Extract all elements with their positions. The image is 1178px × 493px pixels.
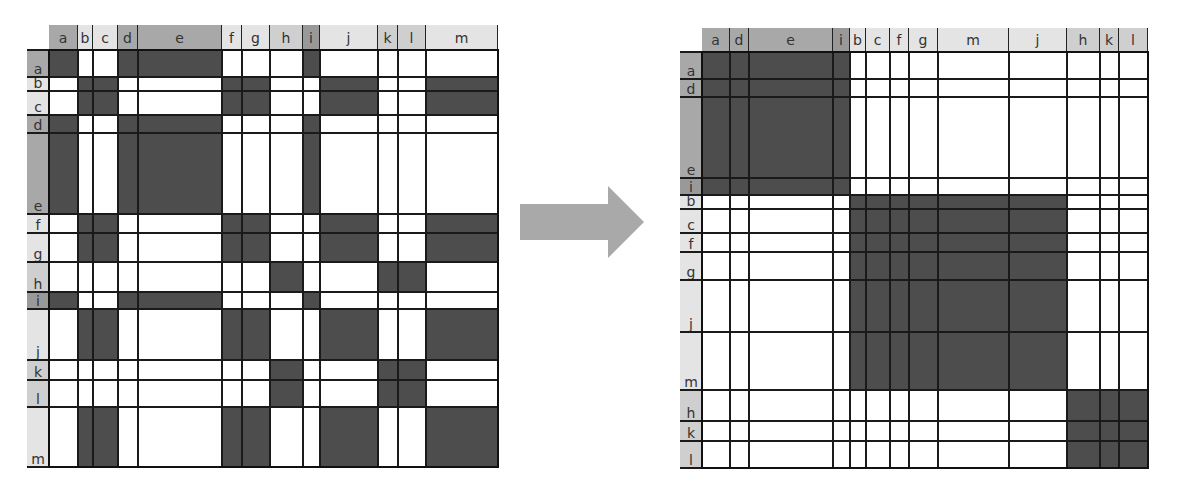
matrix-cell	[78, 133, 93, 214]
matrix-cell	[909, 252, 938, 280]
matrix-cell	[426, 77, 498, 91]
grid-line-horizontal	[680, 467, 1148, 469]
matrix-cell	[1067, 390, 1100, 421]
grid-line-vertical	[302, 50, 304, 467]
matrix-cell	[303, 360, 320, 380]
matrix-cell	[1100, 209, 1119, 233]
matrix-cell	[242, 309, 270, 360]
grid-line-vertical	[221, 50, 223, 467]
matrix-cell	[426, 407, 498, 467]
matrix-cell	[866, 195, 890, 209]
matrix-cell	[118, 91, 138, 115]
matrix-cell	[426, 360, 498, 380]
matrix-cell	[49, 77, 78, 91]
matrix-cell	[303, 115, 320, 133]
matrix-cell	[118, 115, 138, 133]
matrix-cell	[850, 97, 866, 178]
matrix-cell	[730, 209, 749, 233]
matrix-cell	[730, 421, 749, 441]
grid-line-vertical	[908, 52, 910, 468]
row-label-m: m	[27, 407, 49, 467]
matrix-cell	[866, 97, 890, 178]
matrix-cell	[138, 262, 222, 292]
matrix-cell	[1009, 97, 1067, 178]
matrix-cell	[909, 441, 938, 468]
matrix-cell	[242, 77, 270, 91]
matrix-cell	[890, 97, 909, 178]
grid-line-horizontal	[680, 208, 1148, 210]
matrix-cell	[398, 91, 426, 115]
matrix-cell	[118, 380, 138, 407]
matrix-cell	[890, 252, 909, 280]
matrix-cell	[1100, 280, 1119, 332]
matrix-cell	[242, 292, 270, 309]
grid-line-horizontal	[27, 291, 498, 293]
matrix-cell	[398, 309, 426, 360]
column-header-a: a	[702, 28, 730, 52]
matrix-cell	[426, 133, 498, 214]
matrix-cell	[78, 115, 93, 133]
matrix-cell	[1009, 233, 1067, 252]
matrix-cell	[749, 178, 833, 195]
matrix-cell	[303, 262, 320, 292]
column-header-b: b	[850, 28, 866, 52]
matrix-cell	[222, 133, 242, 214]
grid-line-horizontal	[680, 96, 1148, 98]
grid-line-horizontal	[680, 251, 1148, 253]
matrix-cell	[222, 233, 242, 262]
matrix-cell	[909, 178, 938, 195]
matrix-cell	[320, 77, 378, 91]
column-header-m: m	[938, 28, 1009, 52]
matrix-cell	[270, 233, 303, 262]
matrix-cell	[320, 262, 378, 292]
matrix-cell	[833, 233, 850, 252]
row-label-a: a	[680, 52, 702, 79]
matrix-cell	[749, 280, 833, 332]
matrix-cell	[378, 262, 398, 292]
row-label-a: a	[27, 50, 49, 77]
matrix-cell	[78, 309, 93, 360]
matrix-cell	[833, 280, 850, 332]
matrix-cell	[833, 421, 850, 441]
matrix-cell	[49, 115, 78, 133]
matrix-cell	[49, 262, 78, 292]
grid-line-vertical	[269, 50, 271, 467]
matrix-cell	[1009, 209, 1067, 233]
matrix-cell	[49, 214, 78, 233]
matrix-cell	[866, 390, 890, 421]
column-header-l: l	[1119, 28, 1148, 52]
matrix-cell	[866, 79, 890, 97]
column-header-d: d	[730, 28, 749, 52]
matrix-cell	[222, 292, 242, 309]
matrix-cell	[730, 233, 749, 252]
matrix-cell	[49, 309, 78, 360]
grid-line-horizontal	[680, 279, 1148, 281]
row-label-c: c	[27, 91, 49, 115]
matrix-cell	[890, 390, 909, 421]
matrix-cell	[938, 178, 1009, 195]
matrix-cell	[938, 280, 1009, 332]
matrix-cell	[320, 233, 378, 262]
matrix-cell	[1067, 178, 1100, 195]
matrix-cell	[866, 421, 890, 441]
matrix-cell	[270, 380, 303, 407]
matrix-cell	[303, 233, 320, 262]
column-header-f: f	[890, 28, 909, 52]
matrix-cell	[270, 214, 303, 233]
matrix-cell	[49, 50, 78, 77]
matrix-cell	[1009, 390, 1067, 421]
matrix-cell	[378, 407, 398, 467]
column-header-i: i	[833, 28, 850, 52]
matrix-cell	[866, 332, 890, 390]
matrix-cell	[749, 332, 833, 390]
matrix-cell	[49, 91, 78, 115]
matrix-cell	[1067, 252, 1100, 280]
matrix-cell	[118, 233, 138, 262]
matrix-cell	[398, 133, 426, 214]
grid-line-vertical	[832, 52, 834, 468]
grid-line-horizontal	[27, 261, 498, 263]
matrix-cell	[1100, 332, 1119, 390]
matrix-cell	[702, 390, 730, 421]
matrix-cell	[378, 309, 398, 360]
matrix-cell	[833, 195, 850, 209]
